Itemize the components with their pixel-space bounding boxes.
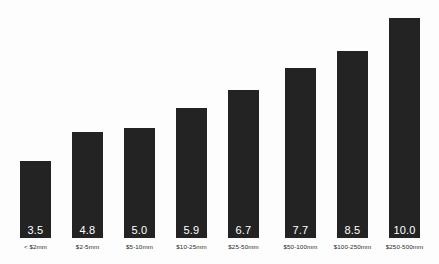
category-label: $50-100mm bbox=[271, 243, 331, 251]
bar-value-label: 7.7 bbox=[285, 224, 316, 236]
bar-group: 5.0 bbox=[124, 128, 155, 238]
bar-group: 3.5 bbox=[20, 161, 51, 238]
bar-value-label: 10.0 bbox=[389, 224, 420, 236]
bar-chart: 3.54.85.05.96.77.78.510.0 < $2mm$2-5mm$5… bbox=[0, 0, 439, 264]
bar: 3.5 bbox=[20, 161, 51, 238]
bar-value-label: 4.8 bbox=[72, 224, 103, 236]
bar: 10.0 bbox=[389, 18, 420, 238]
bar: 5.9 bbox=[176, 108, 207, 238]
bar-value-label: 3.5 bbox=[20, 224, 51, 236]
bar: 8.5 bbox=[337, 51, 368, 238]
bar-group: 8.5 bbox=[337, 51, 368, 238]
bar: 4.8 bbox=[72, 132, 103, 238]
category-label: $5-10mm bbox=[110, 243, 170, 251]
bar: 7.7 bbox=[285, 68, 316, 238]
bar-group: 5.9 bbox=[176, 108, 207, 238]
bar-value-label: 5.0 bbox=[124, 224, 155, 236]
bar: 6.7 bbox=[228, 90, 259, 238]
category-label: $25-50mm bbox=[214, 243, 274, 251]
category-label: $10-25mm bbox=[162, 243, 222, 251]
category-label: < $2mm bbox=[6, 243, 66, 251]
plot-area: 3.54.85.05.96.77.78.510.0 bbox=[0, 0, 439, 238]
bar-group: 4.8 bbox=[72, 132, 103, 238]
bar-group: 10.0 bbox=[389, 18, 420, 238]
bar-group: 6.7 bbox=[228, 90, 259, 238]
bar-group: 7.7 bbox=[285, 68, 316, 238]
category-label: $250-500mm bbox=[375, 243, 435, 251]
bar-value-label: 6.7 bbox=[228, 224, 259, 236]
category-label: $100-250mm bbox=[323, 243, 383, 251]
category-label: $2-5mm bbox=[58, 243, 118, 251]
bar-value-label: 8.5 bbox=[337, 224, 368, 236]
bar: 5.0 bbox=[124, 128, 155, 238]
bar-value-label: 5.9 bbox=[176, 224, 207, 236]
